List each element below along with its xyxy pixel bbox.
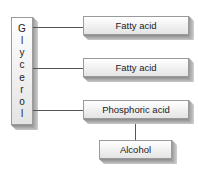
connector-line-2 [33,68,83,69]
bottom-bevel [99,159,177,164]
glycerol-letter: l [21,108,23,119]
alcohol-label: Alcohol [120,144,151,155]
connector-line-3 [33,110,83,111]
glycerol-backbone: G l y c e r o l [11,17,38,130]
glycerol-letter: o [19,96,25,107]
connector-line-alcohol [135,123,136,140]
bottom-bevel [83,119,194,124]
glycerol-face: G l y c e r o l [11,17,33,125]
glycerol-letter: l [21,35,23,46]
phosphoric-acid-box: Phosphoric acid [83,100,194,124]
glycerol-side-bevel [33,17,38,130]
fatty-acid-box-2: Fatty acid [83,58,194,82]
alcohol-box: Alcohol [99,140,177,164]
glycerol-letter: e [19,72,25,83]
glycerol-letter: G [18,23,26,34]
glycerol-letter: c [20,59,25,70]
connector-line-1 [33,27,83,28]
bottom-bevel [83,35,194,40]
fatty-acid-label: Fatty acid [115,20,156,31]
fatty-acid-face: Fatty acid [83,58,189,77]
fatty-acid-face: Fatty acid [83,16,189,35]
bottom-bevel [83,77,194,82]
alcohol-face: Alcohol [99,140,172,159]
phosphoric-acid-face: Phosphoric acid [83,100,189,119]
fatty-acid-label: Fatty acid [115,62,156,73]
glycerol-letter: y [20,47,25,58]
glycerol-letter: r [20,84,23,95]
fatty-acid-box-1: Fatty acid [83,16,194,40]
phosphoric-acid-label: Phosphoric acid [102,104,170,115]
